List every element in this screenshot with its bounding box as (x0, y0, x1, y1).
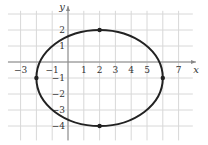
ellipse-graph: −3−112345721−1−2−3−4xy (0, 0, 208, 145)
svg-text:2: 2 (97, 65, 103, 75)
svg-text:1: 1 (81, 65, 87, 75)
svg-text:2: 2 (59, 25, 65, 35)
svg-text:−4: −4 (52, 121, 66, 131)
tick-labels: −3−112345721−1−2−3−4xy (14, 1, 199, 131)
svg-text:4: 4 (128, 65, 134, 75)
svg-text:−3: −3 (14, 65, 28, 75)
svg-text:5: 5 (144, 65, 150, 75)
svg-text:1: 1 (59, 41, 65, 51)
svg-text:x: x (193, 64, 199, 75)
svg-text:7: 7 (176, 65, 182, 75)
svg-text:−2: −2 (52, 89, 65, 99)
svg-text:y: y (58, 1, 65, 12)
svg-text:3: 3 (113, 65, 119, 75)
svg-text:−1: −1 (52, 73, 65, 83)
